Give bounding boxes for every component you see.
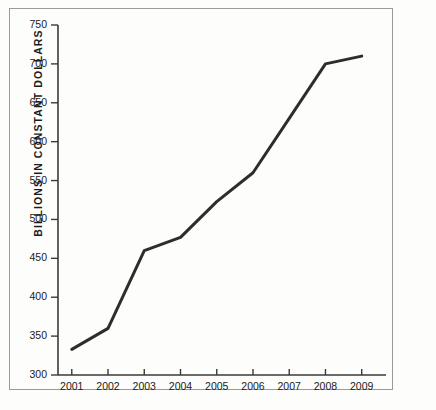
line-chart-plot (10, 9, 392, 389)
y-tick-marks (51, 25, 58, 375)
axes-group (58, 25, 386, 375)
x-tick-marks (72, 369, 362, 375)
chart-figure: 300350400450500550600650700750 200120022… (0, 0, 436, 410)
chart-frame: 300350400450500550600650700750 200120022… (9, 8, 393, 390)
series-line-billions (72, 56, 362, 349)
data-series-group (72, 56, 362, 349)
y-axis-title: BILLIONS IN CONSTANT DOLLARS (32, 23, 44, 243)
